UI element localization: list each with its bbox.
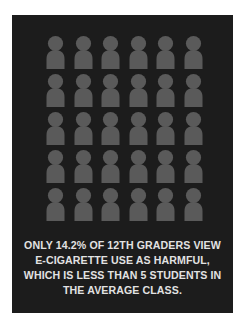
- person-icon: [183, 111, 204, 145]
- person-icon: [183, 149, 204, 183]
- person-icon: [100, 149, 121, 183]
- infographic-panel: ONLY 14.2% OF 12TH GRADERS VIEW E-CIGARE…: [12, 15, 233, 313]
- caption-line-2: E-CIGARETTE USE AS HARMFUL,: [12, 253, 233, 268]
- person-icon: [183, 187, 204, 221]
- person-icon: [128, 111, 149, 145]
- person-icon: [45, 73, 66, 107]
- person-icon: [155, 111, 176, 145]
- caption-line-4: THE AVERAGE CLASS.: [12, 283, 233, 298]
- person-icon: [100, 187, 121, 221]
- caption: ONLY 14.2% OF 12TH GRADERS VIEW E-CIGARE…: [12, 238, 233, 298]
- person-icon: [128, 73, 149, 107]
- person-icon: [45, 35, 66, 69]
- person-icon: [183, 73, 204, 107]
- person-icon: [45, 111, 66, 145]
- caption-line-1: ONLY 14.2% OF 12TH GRADERS VIEW: [12, 238, 233, 253]
- person-icon: [100, 111, 121, 145]
- person-icon: [73, 149, 94, 183]
- person-icon: [73, 73, 94, 107]
- person-icon: [100, 35, 121, 69]
- person-icon: [100, 73, 121, 107]
- person-icon: [73, 111, 94, 145]
- person-icon-grid: [45, 35, 205, 221]
- person-icon: [128, 149, 149, 183]
- person-icon: [155, 73, 176, 107]
- person-icon: [73, 187, 94, 221]
- person-icon: [155, 35, 176, 69]
- person-icon: [128, 187, 149, 221]
- person-icon: [183, 35, 204, 69]
- person-icon: [128, 35, 149, 69]
- caption-line-3: WHICH IS LESS THAN 5 STUDENTS IN: [12, 268, 233, 283]
- person-icon: [45, 149, 66, 183]
- person-icon: [155, 187, 176, 221]
- person-icon: [45, 187, 66, 221]
- person-icon: [73, 35, 94, 69]
- person-icon: [155, 149, 176, 183]
